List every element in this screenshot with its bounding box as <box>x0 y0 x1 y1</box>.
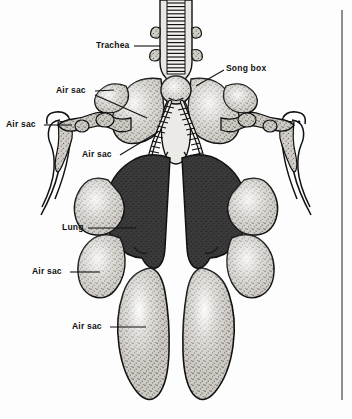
page-margin-rule <box>341 10 343 400</box>
label-air-sac-cervical: Air sac <box>56 85 86 95</box>
label-trachea: Trachea <box>96 40 130 50</box>
figure-canvas: Trachea Song box Air sac Air sac Air sac… <box>0 0 352 419</box>
bird-respiratory-diagram <box>0 0 352 419</box>
label-air-sac-thoracic: Air sac <box>32 266 62 276</box>
label-lung: Lung <box>62 222 84 232</box>
label-air-sac-interclavicular: Air sac <box>82 149 112 159</box>
label-song-box: Song box <box>226 63 266 73</box>
song-box-syrinx <box>161 76 191 104</box>
label-air-sac-humeral: Air sac <box>6 119 36 129</box>
label-air-sac-abdominal: Air sac <box>72 321 102 331</box>
